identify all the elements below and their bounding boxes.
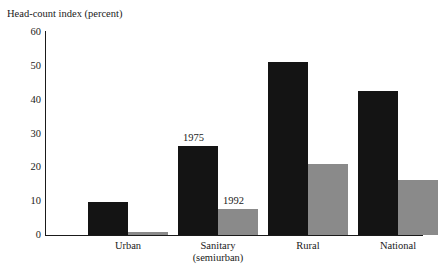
- bar-1992-national: [398, 180, 438, 235]
- bar-group: [358, 32, 438, 235]
- bar-1992-urban: [128, 232, 168, 235]
- bar-1975-sanitary-semiurban: [178, 146, 218, 235]
- y-tick-label: 30: [1, 128, 41, 139]
- bar-1992-sanitary-semiurban: [218, 209, 258, 235]
- x-category-label-line2: (semiurban): [148, 252, 288, 264]
- series-annotation-1992: 1992: [223, 195, 244, 206]
- bar-group: [88, 32, 168, 235]
- y-tick-label: 10: [1, 196, 41, 207]
- bar-1975-rural: [268, 62, 308, 235]
- bar-1975-national: [358, 91, 398, 235]
- x-category-label: National: [328, 240, 442, 252]
- y-tick-label: 20: [1, 162, 41, 173]
- bar-1992-rural: [308, 164, 348, 235]
- x-category-label-line1: Urban: [115, 240, 141, 251]
- x-category-label-line1: Sanitary: [201, 240, 236, 251]
- y-tick-label: 60: [1, 27, 41, 38]
- y-axis-tick-labels: 0102030405060: [0, 0, 41, 268]
- series-annotation-1975: 1975: [183, 132, 204, 143]
- y-tick-label: 40: [1, 94, 41, 105]
- bar-1975-urban: [88, 202, 128, 235]
- x-category-label-line1: Rural: [296, 240, 319, 251]
- y-tick-label: 0: [1, 230, 41, 241]
- bar-group: [268, 32, 348, 235]
- x-axis-line: [45, 235, 423, 236]
- y-tick-label: 50: [1, 61, 41, 72]
- x-category-label-line1: National: [380, 240, 416, 251]
